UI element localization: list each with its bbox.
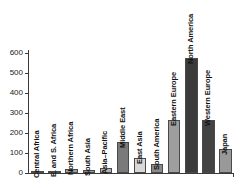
y-tick-0: 0 <box>0 173 28 174</box>
y-tick-mark <box>25 133 28 134</box>
bar-category-label: Western Europe <box>204 70 212 126</box>
bar-category-label: E. and S. Africa <box>50 124 58 177</box>
y-tick-600: 600 <box>0 53 28 54</box>
bar-category-label: Northern Africa <box>67 122 75 175</box>
y-tick-mark <box>25 93 28 94</box>
bar-category-label: East Asia <box>136 131 144 164</box>
bar-category-label: South Asia <box>84 138 92 176</box>
bar[interactable] <box>185 58 198 173</box>
y-tick-label: 200 <box>10 128 23 137</box>
y-tick-mark <box>25 53 28 54</box>
y-tick-200: 200 <box>0 133 28 134</box>
y-tick-300: 300 <box>0 113 28 114</box>
y-tick-mark <box>25 113 28 114</box>
bars-container: Central AfricaE. and S. AfricaNorthern A… <box>29 8 234 173</box>
y-tick-label: 500 <box>10 68 23 77</box>
bar-category-label: South America <box>153 119 161 170</box>
y-tick-100: 100 <box>0 153 28 154</box>
x-axis-line <box>28 173 234 174</box>
bar-category-label: Eastern Europe <box>170 72 178 126</box>
bar-category-label: Japan <box>221 134 229 155</box>
bar-category-label: Central Africa <box>33 130 41 178</box>
bar-category-label: Asia–Pacific <box>101 131 109 174</box>
y-tick-label: 300 <box>10 108 23 117</box>
y-tick-mark <box>25 153 28 154</box>
bar[interactable] <box>202 120 215 173</box>
y-tick-label: 600 <box>10 48 23 57</box>
bar-category-label: North America <box>187 14 195 64</box>
y-tick-label: 0 <box>19 168 23 177</box>
bar-category-label: Middle East <box>119 107 127 148</box>
y-tick-label: 100 <box>10 148 23 157</box>
y-tick-mark <box>25 73 28 74</box>
bar-chart: 0100200300400500600 Central AfricaE. and… <box>0 0 241 188</box>
y-tick-400: 400 <box>0 93 28 94</box>
y-tick-label: 400 <box>10 88 23 97</box>
bar[interactable] <box>168 120 181 173</box>
y-tick-500: 500 <box>0 73 28 74</box>
x-axis-end-tick <box>233 174 234 177</box>
